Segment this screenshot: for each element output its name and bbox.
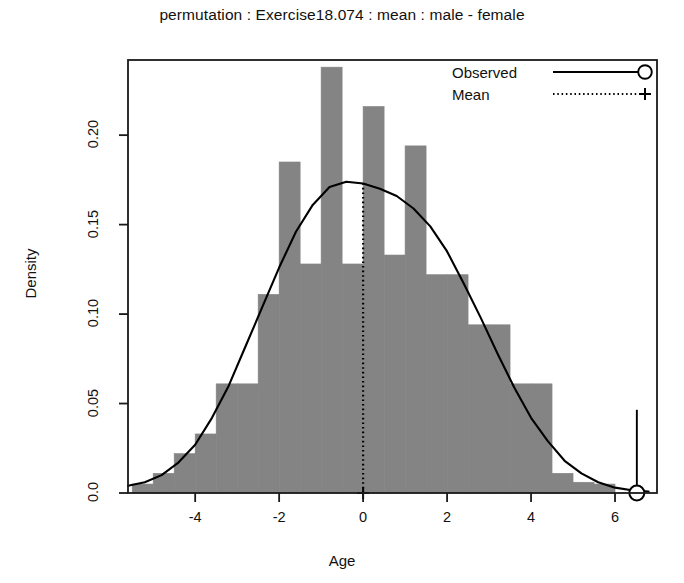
legend-label-mean: Mean	[452, 86, 490, 103]
legend-symbols	[553, 65, 652, 100]
histogram-bar	[489, 325, 510, 493]
histogram-bar	[258, 294, 279, 493]
density-histogram-plot: permutation : Exercise18.074 : mean : ma…	[0, 0, 684, 583]
histogram-bar	[279, 162, 300, 493]
x-tick-label: 0	[343, 509, 383, 525]
y-tick-label: 0.20	[85, 108, 101, 160]
histogram-bar	[300, 264, 321, 493]
histogram-bar	[195, 434, 216, 493]
histogram-bar	[237, 384, 258, 493]
y-tick-label: 0.10	[85, 287, 101, 339]
histogram-bar	[552, 473, 573, 493]
y-tick-label: 0.15	[85, 198, 101, 250]
y-axis-title: Density	[22, 204, 39, 344]
x-axis-title: Age	[0, 552, 684, 569]
histogram-bar	[321, 67, 342, 493]
histogram-bar	[216, 384, 237, 493]
x-tick-label: -4	[175, 509, 215, 525]
x-tick-label: -2	[259, 509, 299, 525]
x-tick-label: 2	[427, 509, 467, 525]
histogram-bar	[342, 264, 363, 493]
histogram-bar	[363, 107, 384, 493]
y-tick-label: 0.0	[85, 466, 101, 518]
histogram-bar	[384, 255, 405, 493]
legend-circle-icon	[638, 65, 652, 79]
histogram-bar	[594, 484, 615, 493]
x-tick-label: 4	[511, 509, 551, 525]
plot-canvas	[0, 0, 684, 583]
y-tick-label: 0.05	[85, 377, 101, 429]
histogram-bar	[573, 482, 594, 493]
histogram-bar	[426, 275, 447, 493]
legend-label-observed: Observed	[452, 64, 517, 81]
histogram-bar	[132, 484, 153, 493]
histogram-bar	[468, 325, 489, 493]
histogram-bar	[174, 454, 195, 493]
histogram-bar	[531, 384, 552, 493]
legend-plus-icon	[639, 88, 651, 100]
histogram-bar	[447, 275, 468, 493]
x-tick-label: 6	[595, 509, 635, 525]
histogram-bar	[405, 146, 426, 493]
